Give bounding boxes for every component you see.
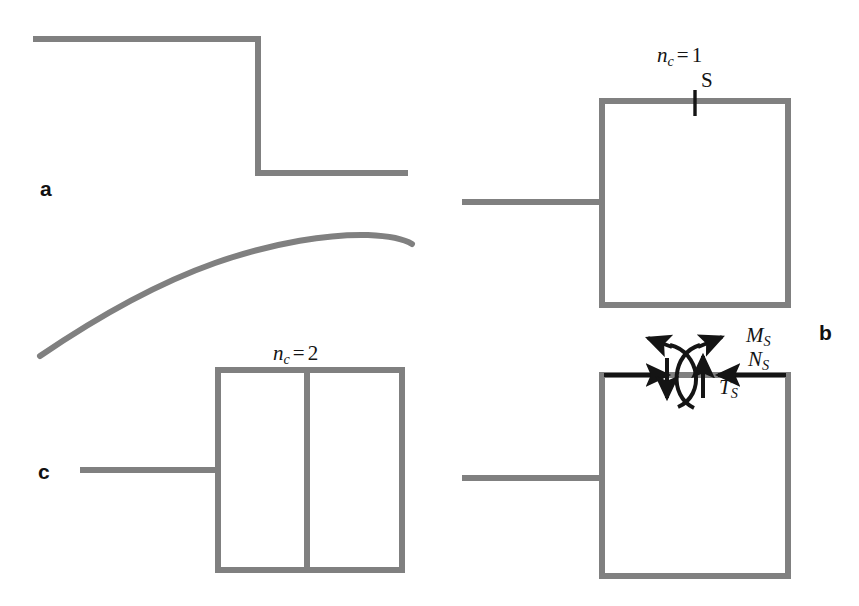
section-marker-label: S: [701, 70, 713, 91]
cell-one-count-label: nc=1: [657, 45, 702, 68]
moment-resultant-label: MS: [746, 325, 771, 348]
moment-arrow-right-head-icon: [698, 337, 722, 347]
panel-a-smooth-curve: [40, 235, 412, 356]
normal-force-resultant-label: NS: [748, 349, 769, 372]
cell-b-group: [462, 375, 788, 576]
figure-canvas: [0, 0, 859, 606]
panel-letter-b: b: [819, 322, 832, 343]
panel-a-step-curve: [33, 39, 408, 173]
figure-root: nc=1 S nc=2 MS NS TS a b c: [0, 0, 859, 606]
cell-b-box: [602, 375, 788, 576]
cell-two-count-label: nc=2: [273, 343, 318, 366]
panel-letter-a: a: [40, 178, 52, 199]
cell-two-group: [80, 370, 402, 570]
shear-force-resultant-label: TS: [719, 377, 738, 400]
moment-arrow-left-head-icon: [648, 338, 672, 347]
panel-letter-c: c: [38, 461, 50, 482]
cell-one-box: [602, 101, 788, 305]
cell-one-group: [462, 90, 788, 305]
